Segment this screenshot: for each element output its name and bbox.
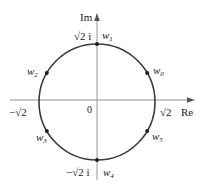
label-w3: w3 [36,131,47,145]
complex-plane-diagram: Im Re 0 √2 i −√2 i √2 −√2 w0 w1 w2 w3 w4… [0,0,204,186]
point-w5 [145,129,149,133]
label-w0: w0 [153,64,164,78]
label-w5: w5 [152,130,163,144]
point-w0 [145,71,149,75]
neg-real-tick-label: −√2 [9,106,27,118]
point-w1 [95,42,99,46]
imag-axis-label: Im [80,11,93,23]
label-w4: w4 [103,166,114,180]
point-w2 [45,71,49,75]
real-axis-label: Re [181,106,193,118]
pos-real-tick-label: √2 [160,106,172,118]
neg-imag-tick-label: −√2 i [66,166,90,178]
label-w1: w1 [102,29,113,43]
pos-imag-tick-label: √2 i [74,30,91,42]
point-w3 [45,129,49,133]
imag-axis-arrow-icon [94,13,100,21]
label-w2: w2 [27,65,38,79]
real-axis-arrow-icon [187,97,195,103]
point-w4 [95,158,99,162]
origin-label: 0 [87,104,92,115]
